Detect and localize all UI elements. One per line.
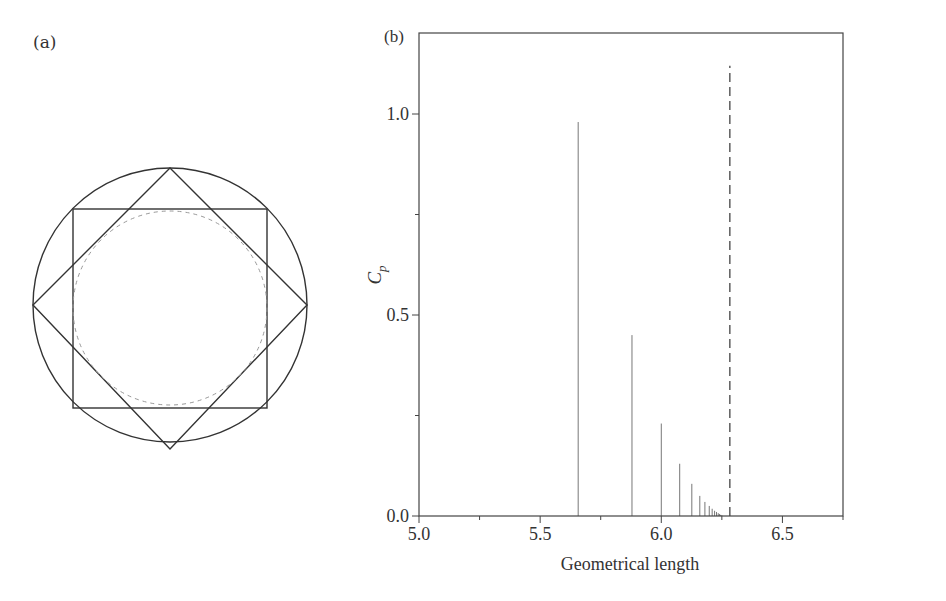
panel-b-label: (b) — [384, 27, 404, 46]
geometry-svg — [0, 0, 350, 470]
y-tick-label: 1.0 — [387, 104, 410, 124]
x-tick-label: 5.5 — [529, 524, 552, 544]
y-axis-ticks: 0.00.51.0 — [387, 104, 420, 526]
y-tick-label: 0.0 — [387, 506, 410, 526]
panel-a-diagram: (a) — [0, 0, 350, 470]
x-tick-label: 6.5 — [771, 524, 794, 544]
y-tick-label: 0.5 — [387, 305, 410, 325]
svg-text:Cp: Cp — [364, 265, 389, 285]
x-tick-label: 5.0 — [408, 524, 431, 544]
bar-chart: (b) 5.05.56.06.5 0.00.51.0 Geometrical l… — [350, 0, 946, 601]
bars-group — [578, 122, 722, 516]
x-axis-label: Geometrical length — [561, 554, 699, 574]
x-tick-label: 6.0 — [650, 524, 673, 544]
dashed-inner-circle — [73, 211, 267, 405]
plot-frame — [419, 33, 843, 516]
x-axis-ticks: 5.05.56.06.5 — [408, 516, 843, 544]
rotated-square — [33, 168, 307, 449]
panel-b-chart: (b) 5.05.56.06.5 0.00.51.0 Geometrical l… — [350, 0, 946, 601]
y-axis-label: Cp — [364, 265, 389, 285]
